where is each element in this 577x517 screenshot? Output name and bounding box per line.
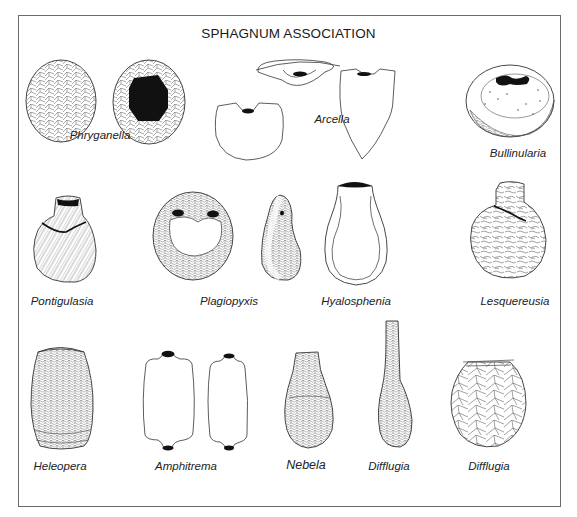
plagiopyxis-drawing-front — [153, 192, 233, 280]
specimen-drawings — [0, 0, 577, 517]
label-phryganella: Phryganella — [70, 129, 131, 141]
lesquereusia-drawing — [471, 182, 547, 278]
arcella-drawing-side — [256, 60, 340, 86]
label-plagiopyxis: Plagiopyxis — [200, 295, 258, 307]
nebela-drawing — [285, 352, 333, 448]
amphitrema-drawing-2 — [208, 353, 248, 450]
arcella-drawing-front — [215, 103, 283, 160]
bullinularia-drawing — [466, 65, 554, 137]
label-nebela: Nebela — [286, 458, 326, 472]
plagiopyxis-drawing-side — [262, 195, 301, 280]
label-difflugia-1: Difflugia — [368, 460, 410, 472]
heleopera-drawing — [31, 348, 93, 450]
label-amphitrema: Amphitrema — [155, 460, 217, 472]
label-arcella: Arcella — [314, 113, 349, 125]
label-hyalosphenia: Hyalosphenia — [321, 295, 391, 307]
label-bullinularia: Bullinularia — [490, 147, 546, 159]
difflugia-drawing-2 — [451, 360, 526, 447]
pontigulasia-drawing — [34, 196, 96, 282]
label-difflugia-2: Difflugia — [468, 460, 510, 472]
label-lesquereusia: Lesquereusia — [480, 295, 549, 307]
label-pontigulasia: Pontigulasia — [31, 295, 94, 307]
difflugia-drawing-1 — [378, 321, 412, 447]
testate-amoebae-figure: SPHAGNUM ASSOCIATION — [0, 0, 577, 517]
hyalosphenia-drawing — [325, 182, 387, 285]
amphitrema-drawing-1 — [143, 351, 194, 451]
label-heleopera: Heleopera — [33, 460, 86, 472]
